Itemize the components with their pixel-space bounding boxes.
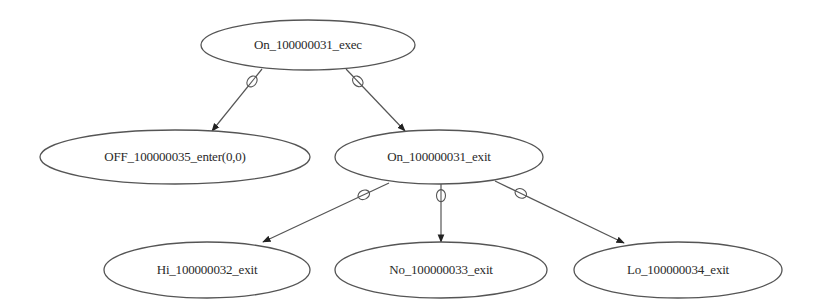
edge-n2-n3 (263, 183, 389, 242)
circle-slash-icon (245, 74, 260, 89)
state-node-label: On_100000031_exec (254, 37, 362, 53)
circle-slash-icon (513, 187, 528, 200)
state-node-label: Hi_100000032_exit (157, 262, 258, 278)
edge-n0-n2 (346, 69, 405, 131)
circle-slash-icon (356, 188, 371, 201)
state-node-label: Lo_100000034_exit (627, 262, 729, 278)
edge-n0-n1 (212, 69, 262, 131)
edge-line (263, 183, 389, 242)
edge-line (495, 181, 624, 243)
state-node-label: OFF_100000035_enter(0,0) (104, 149, 245, 165)
state-node-label: No_100000033_exit (389, 262, 492, 278)
edge-n2-n4 (437, 184, 446, 242)
circle-slash-icon (437, 190, 446, 202)
state-node-label: On_100000031_exit (387, 149, 490, 165)
edge-n2-n5 (495, 181, 624, 243)
